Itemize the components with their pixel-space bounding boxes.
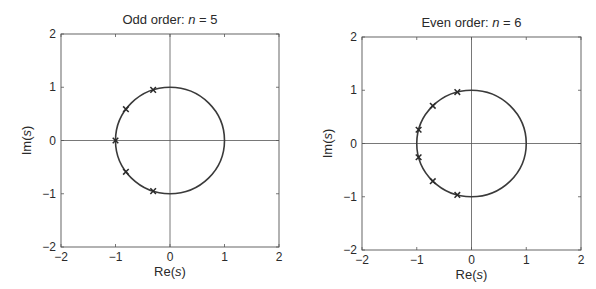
x-label-part: ) xyxy=(483,267,487,282)
x-tick-label: −1 xyxy=(410,253,424,267)
y-tick-label: 2 xyxy=(350,30,357,44)
title-suffix: = 5 xyxy=(195,12,217,27)
y-axis-label: Im(s) xyxy=(320,129,335,159)
title-prefix: Even order: xyxy=(421,15,492,30)
x-label-part: Re( xyxy=(456,267,478,282)
title-prefix: Odd order: xyxy=(122,12,188,27)
y-tick-label: 0 xyxy=(350,137,357,151)
x-tick-label: 2 xyxy=(276,250,283,264)
x-label-part: Re( xyxy=(154,264,176,279)
y-tick-label: 2 xyxy=(49,27,56,41)
plot-even-order: Even order: n = 6−2−1012−2−1012Re(s)Im(s… xyxy=(298,0,596,289)
x-tick-label: −2 xyxy=(54,250,68,264)
y-label-part: Im( xyxy=(320,139,335,158)
y-tick-label: 1 xyxy=(350,83,357,97)
even-order-chart-svg: Even order: n = 6−2−1012−2−1012Re(s)Im(s… xyxy=(298,0,596,289)
y-label-part: ) xyxy=(320,129,335,133)
x-axis-label: Re(s) xyxy=(154,264,186,279)
x-label-part: ) xyxy=(182,264,186,279)
pole-marker-x-icon xyxy=(123,169,129,175)
x-tick-label: 1 xyxy=(221,250,228,264)
title-variable: n xyxy=(492,15,499,30)
y-tick-label: 0 xyxy=(49,134,56,148)
y-tick-label: −1 xyxy=(42,187,56,201)
y-tick-label: 1 xyxy=(49,80,56,94)
title-variable: n xyxy=(188,12,195,27)
pole-marker-x-icon xyxy=(123,106,129,112)
odd-order-chart-svg: Odd order: n = 5−2−1012−2−1012Re(s)Im(s) xyxy=(0,0,298,289)
x-tick-label: −2 xyxy=(355,253,369,267)
chart-title: Odd order: n = 5 xyxy=(122,12,217,27)
y-axis-label: Im(s) xyxy=(19,126,34,156)
title-suffix: = 6 xyxy=(500,15,522,30)
y-tick-label: −1 xyxy=(343,190,357,204)
x-tick-label: 0 xyxy=(468,253,475,267)
y-label-part: Im( xyxy=(19,136,34,155)
x-tick-label: 0 xyxy=(167,250,174,264)
y-tick-label: −2 xyxy=(42,240,56,254)
x-axis-label: Re(s) xyxy=(456,267,488,282)
x-tick-label: 1 xyxy=(523,253,530,267)
y-tick-label: −2 xyxy=(343,243,357,257)
chart-title: Even order: n = 6 xyxy=(421,15,521,30)
y-label-part: ) xyxy=(19,126,34,130)
pole-marker-x-icon xyxy=(430,103,436,109)
plot-odd-order: Odd order: n = 5−2−1012−2−1012Re(s)Im(s) xyxy=(0,0,298,289)
x-tick-label: 2 xyxy=(578,253,585,267)
pole-marker-x-icon xyxy=(430,178,436,184)
x-tick-label: −1 xyxy=(109,250,123,264)
